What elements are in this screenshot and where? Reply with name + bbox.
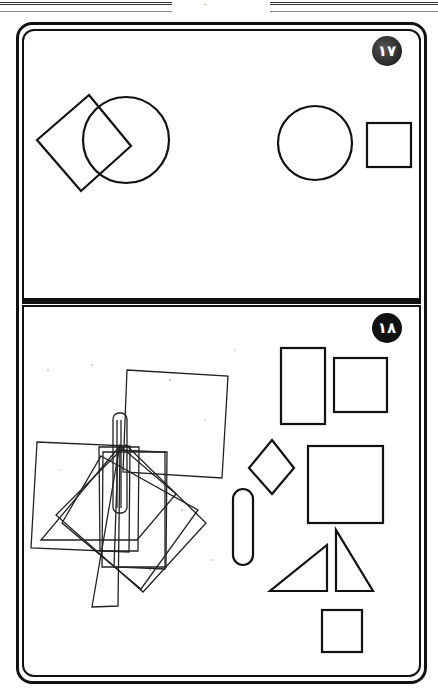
right-triangle-left-shape [270, 545, 327, 591]
tall-rectangle-shape [281, 348, 325, 424]
small-square-shape [334, 358, 387, 412]
diamond-shape [249, 440, 294, 494]
overlapping-shapes-cluster [31, 370, 228, 607]
large-square-shape [308, 446, 383, 523]
circle-shape [278, 106, 352, 180]
right-triangle-right-shape [336, 530, 373, 591]
capsule-shape [233, 489, 253, 565]
square-shape [367, 123, 411, 167]
shapes-canvas [0, 0, 438, 693]
bottom-square-shape [322, 610, 362, 652]
